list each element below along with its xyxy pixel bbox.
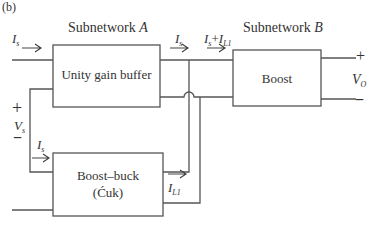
vs-plus-sign: + (12, 98, 22, 119)
vo-plus-sign: + (356, 47, 365, 65)
is-plus-il1-label: Is+IL1 (204, 31, 232, 48)
subnetwork-b-title: Subnetwork B (243, 20, 323, 36)
is-buckboost-label: Is (37, 137, 44, 154)
is-buckboost-arrow-icon (32, 154, 49, 162)
vs-loop-wire (30, 89, 53, 172)
vo-minus-sign: − (355, 91, 364, 109)
is-input-label: Is (12, 31, 19, 48)
is-input-arrow-icon (22, 44, 41, 52)
vs-minus-sign: − (13, 129, 22, 147)
vo-label: VO (352, 72, 366, 89)
unity-gain-buffer-label: Unity gain buffer (53, 66, 160, 83)
is-buffer-out-label: Is (175, 31, 182, 48)
il1-label: IL1 (168, 180, 181, 197)
il1-wire (163, 60, 189, 172)
subnetwork-a-title: Subnetwork A (68, 20, 148, 36)
il1-arrow-icon (168, 170, 186, 178)
boost-label: Boost (233, 70, 321, 87)
boost-buck-label: Boost–buck (Ćuk) (53, 167, 163, 201)
return-bus-wire (160, 92, 233, 97)
figure-label: (b) (2, 0, 16, 15)
